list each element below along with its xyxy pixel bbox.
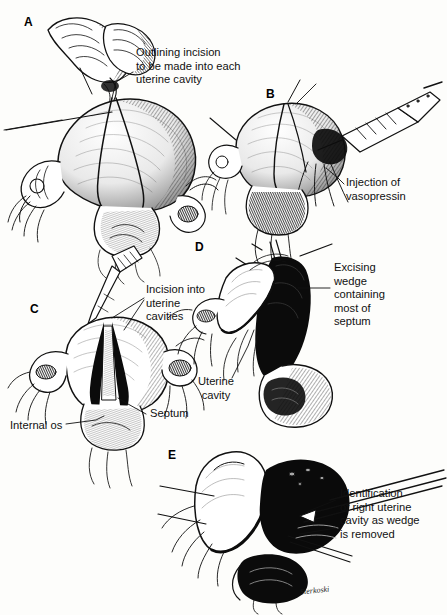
callout-incision-into-uterine-cavities: Incision into uterine cavities xyxy=(146,283,232,324)
callout-excising-wedge: Excising wedge containing most of septum xyxy=(334,261,428,329)
panel-letter-e: E xyxy=(168,449,176,461)
callout-identification-right-cavity: Identification of right uterine cavity a… xyxy=(340,487,444,541)
panel-letter-c: C xyxy=(30,303,39,315)
panel-letter-b: B xyxy=(266,88,275,100)
panel-b-artwork xyxy=(202,80,442,270)
panel-letter-a: A xyxy=(24,16,33,28)
callout-outlining-incision: Outlining incision to be made into each … xyxy=(136,46,256,87)
callout-internal-os: Internal os xyxy=(10,419,70,433)
panel-letter-d: D xyxy=(195,241,204,253)
figure-plate: A B C D E Outlining incision to be made … xyxy=(0,0,447,615)
callout-uterine-cavity: Uterine cavity xyxy=(186,375,246,402)
callout-injection-vasopressin: Injection of vasopressin xyxy=(346,176,442,203)
artist-signature: Sterkoski xyxy=(300,584,330,596)
callout-septum: Septum xyxy=(150,407,216,421)
